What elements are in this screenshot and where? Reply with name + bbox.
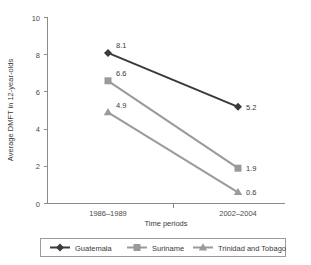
data-label-trinidad-and-tobago-1: 4.9 (116, 101, 126, 110)
series-suriname-marker-1 (105, 77, 112, 84)
x-axis-title: Time periods (144, 219, 187, 228)
y-tick-label-10: 10 (32, 14, 40, 23)
x-tick-label-period-2: 2002–2004 (219, 209, 257, 218)
series-guatemala-marker-1 (104, 49, 112, 57)
data-label-suriname-1: 6.6 (116, 69, 126, 78)
series-guatemala-marker-2 (234, 103, 242, 111)
series-guatemala-line (108, 53, 238, 107)
y-axis: 10 8 6 4 2 0 Average DMFT in 12-year-old… (6, 14, 48, 209)
data-label-suriname-2: 1.9 (246, 164, 256, 173)
chart-figure: 10 8 6 4 2 0 Average DMFT in 12-year-old… (0, 0, 311, 265)
series-trinidad-and-tobago: 4.9 0.6 (104, 101, 257, 197)
y-tick-label-4: 4 (36, 125, 40, 134)
chart-legend: Guatemala Suriname Trinidad and Tobago (41, 239, 286, 257)
data-label-guatemala-2: 5.2 (246, 103, 256, 112)
series-guatemala: 8.1 5.2 (104, 41, 256, 112)
line-chart-canvas: 10 8 6 4 2 0 Average DMFT in 12-year-old… (0, 0, 311, 265)
y-tick-label-0: 0 (36, 200, 40, 209)
y-tick-label-2: 2 (36, 162, 40, 171)
x-axis: 1986–1989 2002–2004 Time periods (48, 204, 286, 229)
legend-label-suriname: Suriname (152, 244, 184, 253)
y-axis-title: Average DMFT in 12-year-olds (6, 59, 15, 162)
data-label-trinidad-and-tobago-2: 0.6 (246, 188, 256, 197)
data-label-guatemala-1: 8.1 (116, 41, 126, 50)
legend-label-guatemala: Guatemala (75, 244, 113, 253)
legend-label-trinidad-and-tobago: Trinidad and Tobago (218, 244, 286, 253)
series-suriname-marker-2 (235, 165, 242, 172)
series-trinidad-and-tobago-marker-1 (104, 108, 112, 115)
y-tick-label-6: 6 (36, 88, 40, 97)
y-tick-label-8: 8 (36, 51, 40, 60)
legend-marker-square-icon (134, 244, 141, 251)
x-tick-label-period-1: 1986–1989 (89, 209, 127, 218)
